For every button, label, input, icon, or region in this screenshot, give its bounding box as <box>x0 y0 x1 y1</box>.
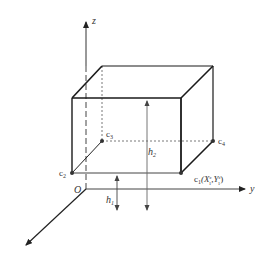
x-axis <box>26 189 86 245</box>
cuboid-coordinate-diagram: z y O c2 c3 c4 c1(Xc1,Yc1) <box>0 0 269 261</box>
z-axis-label: z <box>91 15 96 26</box>
corner-c4-label: c4 <box>218 136 225 147</box>
corner-c3-point <box>100 139 104 143</box>
corner-c1-label: c1(Xc1,Yc1) <box>194 174 223 186</box>
origin-label: O <box>74 184 81 195</box>
y-axis-label: y <box>249 183 255 194</box>
h1-label: h1 <box>106 194 114 206</box>
corner-c1-point <box>179 171 183 175</box>
corner-c3-label: c3 <box>106 129 113 140</box>
h2-label: h2 <box>148 146 156 158</box>
corner-c2-point <box>70 171 74 175</box>
hidden-edges <box>102 66 213 141</box>
bottom-left-depth-edge <box>72 141 102 173</box>
corner-c2-label: c2 <box>59 168 66 179</box>
corner-c4-point <box>211 139 215 143</box>
cuboid <box>72 66 213 173</box>
